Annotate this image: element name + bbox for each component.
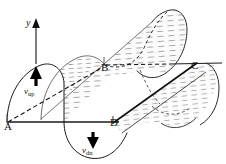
figure-canvas <box>0 0 226 164</box>
v-up-label: vup <box>24 87 35 96</box>
vertex-label-B: B <box>101 62 108 73</box>
v-dn-label: vdn <box>82 146 93 155</box>
v-dn-subscript: dn <box>86 149 93 156</box>
vertex-label-D: D <box>110 117 118 128</box>
vertex-label-A: A <box>4 121 12 132</box>
y-axis-arrow <box>32 18 40 64</box>
v-up-subscript: up <box>28 90 35 97</box>
vertex-label-C: C <box>191 60 198 71</box>
wave-sheet-figure: y A B C D vup vdn <box>0 0 226 164</box>
y-axis-label: y <box>26 18 30 28</box>
